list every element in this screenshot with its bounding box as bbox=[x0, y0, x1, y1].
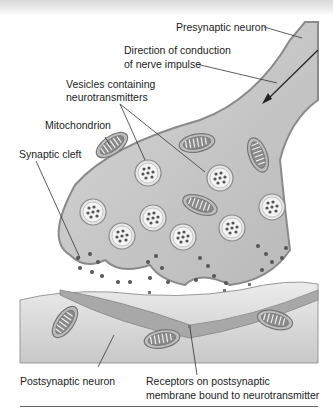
label-receptors-line2: membrane bound to neurotransmitter bbox=[146, 389, 319, 401]
label-receptors-line1: Receptors on postsynaptic bbox=[146, 375, 270, 387]
label-mitochondrion: Mitochondrion bbox=[45, 119, 111, 131]
label-vesicles-line2: neurotransmitters bbox=[66, 91, 148, 103]
label-direction-line2: of nerve impulse bbox=[124, 58, 201, 70]
label-synaptic-cleft: Synaptic cleft bbox=[19, 148, 81, 160]
bottom-divider bbox=[20, 406, 318, 407]
label-direction-line1: Direction of conduction bbox=[124, 44, 231, 56]
label-postsynaptic-neuron: Postsynaptic neuron bbox=[20, 375, 115, 387]
label-vesicles-line1: Vesicles containing bbox=[66, 78, 155, 90]
label-presynaptic-neuron: Presynaptic neuron bbox=[176, 21, 266, 33]
